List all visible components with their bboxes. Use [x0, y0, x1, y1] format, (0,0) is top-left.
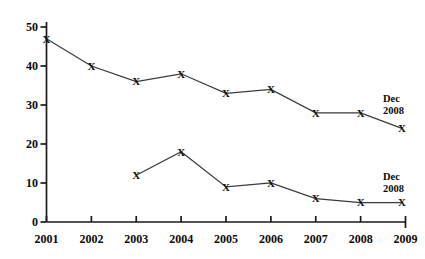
data-point-marker: X	[87, 60, 95, 72]
chart-axes	[41, 22, 406, 228]
annotation-upper-line2: 2008	[383, 105, 404, 117]
data-point-marker: X	[222, 87, 230, 99]
y-axis-tick-label: 0	[6, 216, 38, 228]
y-axis-tick-label: 40	[6, 60, 38, 72]
x-axis-tick-label: 2008	[339, 233, 383, 245]
data-point-marker: X	[267, 177, 275, 189]
x-axis-tick-label: 2007	[294, 233, 338, 245]
x-axis-tick-label: 2009	[384, 233, 425, 245]
chart-series-group	[47, 39, 402, 203]
data-point-marker: X	[132, 75, 140, 87]
data-point-marker: X	[312, 107, 320, 119]
data-point-marker: X	[312, 192, 320, 204]
y-axis-tick-label: 10	[6, 177, 38, 189]
x-axis-tick-label: 2002	[69, 233, 113, 245]
data-point-marker: X	[267, 83, 275, 95]
data-point-marker: X	[398, 122, 406, 134]
data-point-marker: X	[177, 146, 185, 158]
annotation-lower-line1: Dec	[383, 171, 404, 183]
series-line-upper-series	[47, 39, 402, 129]
x-axis-tick-label: 2005	[204, 233, 248, 245]
chart-markers-group: XXXXXXXXXXXXXXXX	[43, 33, 406, 209]
data-point-marker: X	[177, 68, 185, 80]
annotation-lower-line2: 2008	[383, 183, 404, 195]
data-point-marker: X	[132, 169, 140, 181]
data-point-marker: X	[357, 107, 365, 119]
chart-plot-area: XXXXXXXXXXXXXXXX	[0, 0, 425, 259]
y-axis-tick-label: 30	[6, 99, 38, 111]
chart-container: XXXXXXXXXXXXXXXX 50403020100 20012002200…	[0, 0, 425, 259]
x-axis-tick-label: 2003	[114, 233, 158, 245]
data-point-marker: X	[398, 196, 406, 208]
annotation-lower-dec-2008: Dec 2008	[383, 171, 404, 195]
annotation-upper-dec-2008: Dec 2008	[383, 93, 404, 117]
data-point-marker: X	[43, 33, 51, 45]
y-axis-tick-label: 50	[6, 21, 38, 33]
data-point-marker: X	[357, 196, 365, 208]
x-axis-tick-label: 2006	[249, 233, 293, 245]
x-axis-tick-label: 2001	[25, 233, 69, 245]
y-axis-tick-label: 20	[6, 138, 38, 150]
data-point-marker: X	[222, 181, 230, 193]
annotation-upper-line1: Dec	[383, 93, 404, 105]
x-axis-tick-label: 2004	[159, 233, 203, 245]
